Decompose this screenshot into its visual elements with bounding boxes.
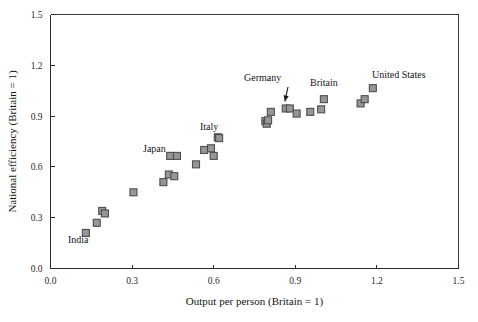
marker-square <box>307 108 314 115</box>
y-tick-label-2: 0.6 <box>31 162 43 172</box>
marker-square <box>216 135 223 142</box>
data-point <box>265 117 272 124</box>
germany-arrow-head <box>284 95 289 101</box>
y-tick-label-5: 1.5 <box>31 10 43 20</box>
data-point <box>193 161 200 168</box>
marker-square <box>130 189 137 196</box>
marker-square <box>265 117 272 124</box>
data-point <box>210 152 217 159</box>
data-point <box>173 152 180 159</box>
marker-square <box>160 179 167 186</box>
data-point <box>369 85 376 92</box>
marker-square <box>193 161 200 168</box>
data-point <box>201 146 208 153</box>
x-tick-label-2: 0.6 <box>208 276 220 286</box>
marker-square <box>93 219 100 226</box>
data-point <box>93 219 100 226</box>
data-point <box>207 145 214 152</box>
plot-frame <box>51 15 459 269</box>
marker-square <box>320 96 327 103</box>
plot-area: 0.00.30.60.91.21.5 0.00.30.60.91.21.5 In… <box>0 0 478 322</box>
annotation-label-india: India <box>68 234 89 245</box>
marker-square <box>369 85 376 92</box>
axis-ticks <box>51 15 459 269</box>
point-annotations: IndiaJapanItalyGermanyBritainUnited Stat… <box>68 69 426 245</box>
marker-square <box>167 152 174 159</box>
marker-square <box>101 210 108 217</box>
x-tick-label-0: 0.0 <box>45 276 57 286</box>
x-tick-labels: 0.00.30.60.91.21.5 <box>45 276 465 286</box>
data-point <box>101 210 108 217</box>
marker-square <box>293 110 300 117</box>
data-point <box>160 179 167 186</box>
x-axis-title: Output per person (Britain = 1) <box>186 295 324 308</box>
marker-square <box>286 105 293 112</box>
marker-square <box>361 96 368 103</box>
y-tick-labels: 0.00.30.60.91.21.5 <box>31 10 43 274</box>
annotation-label-united-states: United States <box>372 69 426 80</box>
marker-square <box>318 106 325 113</box>
data-point <box>286 105 293 112</box>
data-point <box>361 96 368 103</box>
x-tick-label-1: 0.3 <box>126 276 138 286</box>
data-point <box>167 152 174 159</box>
annotation-label-britain: Britain <box>310 77 338 88</box>
marker-square <box>201 146 208 153</box>
marker-square <box>207 145 214 152</box>
marker-square <box>173 152 180 159</box>
x-tick-label-3: 0.9 <box>289 276 301 286</box>
y-tick-label-1: 0.3 <box>31 213 43 223</box>
data-point <box>130 189 137 196</box>
data-point <box>318 106 325 113</box>
marker-square <box>267 108 274 115</box>
data-point <box>293 110 300 117</box>
y-tick-label-0: 0.0 <box>31 264 43 274</box>
x-tick-label-4: 1.2 <box>371 276 383 286</box>
y-tick-label-3: 0.9 <box>31 112 43 122</box>
y-axis-title: National efficiency (Britain = 1) <box>6 70 19 213</box>
data-point <box>267 108 274 115</box>
annotation-label-italy: Italy <box>200 121 218 132</box>
y-tick-label-4: 1.2 <box>31 61 43 71</box>
data-point <box>307 108 314 115</box>
marker-square <box>210 152 217 159</box>
annotation-label-germany: Germany <box>244 72 281 83</box>
data-markers <box>82 85 376 237</box>
data-point <box>171 173 178 180</box>
x-tick-label-5: 1.5 <box>453 276 465 286</box>
marker-square <box>171 173 178 180</box>
scatter-chart: 0.00.30.60.91.21.5 0.00.30.60.91.21.5 In… <box>0 0 478 322</box>
annotation-label-japan: Japan <box>143 143 166 154</box>
data-point <box>320 96 327 103</box>
data-point <box>216 135 223 142</box>
